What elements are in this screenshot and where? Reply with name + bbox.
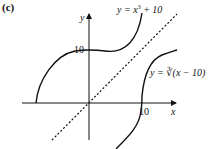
equation-label-cube-root: y = ∛(x − 10)	[150, 68, 205, 78]
x-axis-label: x	[171, 107, 175, 117]
y-tick-10: 10	[74, 45, 84, 55]
eq1-suffix: + 10	[141, 4, 163, 15]
eq1-prefix: y = x	[117, 4, 138, 15]
curve-cube-root	[116, 50, 177, 149]
y-axis-label: y	[80, 13, 84, 23]
equation-label-cubic: y = x3 + 10	[117, 4, 162, 15]
x-tick-10: 10	[139, 107, 149, 117]
